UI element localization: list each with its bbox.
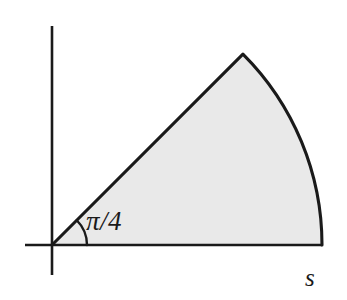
sector-figure (0, 0, 347, 300)
figure-container: π/4 s (0, 0, 347, 300)
angle-label: π/4 (86, 206, 122, 237)
axis-label-s: s (305, 264, 315, 292)
